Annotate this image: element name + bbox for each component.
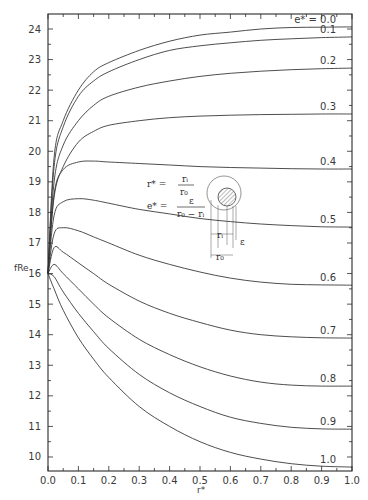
y-tick-label: 22 [28,85,41,96]
y-tick-label: 14 [28,329,41,340]
x-tick-label: 1.0 [344,475,360,486]
formula-e-lhs: e* = [147,201,167,211]
y-tick-label: 12 [28,390,41,401]
x-tick-label: 0.8 [283,475,299,486]
curve-label: 0.7 [320,325,336,336]
x-tick-label: 0.2 [101,475,117,486]
x-axis-label: r* [197,485,206,495]
y-tick-label: 13 [28,360,41,371]
y-tick-label: 11 [28,421,41,432]
y-tick-label: 19 [28,176,41,187]
x-tick-label: 0.7 [253,475,269,486]
formula-e-denominator: r₀ − rᵢ [177,209,204,219]
x-tick-label: 0.9 [314,475,330,486]
y-tick-label: 20 [28,146,41,157]
inner-rod-circle [218,188,236,206]
x-tick-label: 0.6 [222,475,238,486]
curve-label: 0.6 [320,272,336,283]
curve-e-0-3 [48,114,352,274]
formula-e-numerator: ε [189,196,194,206]
y-tick-label: 15 [28,299,41,310]
plot-frame [48,14,352,471]
y-axis-label: fRe [14,263,29,273]
curve-label: 0.3 [320,101,336,112]
curve-label: 0.5 [320,214,336,225]
x-tick-label: 0.3 [131,475,147,486]
diagram-label-ri: rᵢ [217,230,223,240]
fre-vs-rstar-chart: 1011121314151617181920212223240.00.10.20… [0,0,368,500]
curve-label: 0.4 [320,156,336,167]
formula-r-lhs: r* = [147,179,166,189]
diagram-label-ro: r₀ [216,252,224,262]
curve-e-0-8 [48,264,352,386]
curve-e-0-9 [48,274,352,430]
curve-e-0-7 [48,246,352,338]
y-tick-label: 23 [28,54,41,65]
curve-label: 0.2 [320,55,336,66]
curve-label: 0.9 [320,416,336,427]
y-tick-label: 21 [28,115,41,126]
axes-group [48,14,352,471]
y-tick-label: 18 [28,207,41,218]
curve-label: 0.1 [320,24,336,35]
curve-label: 1.0 [320,454,336,465]
curve-e-0-2 [48,68,352,273]
formula-r-numerator: rᵢ [182,174,188,184]
y-tick-label: 16 [28,268,41,279]
eccentric-annulus-diagram: rᵢ r₀ ε [207,176,245,262]
formula-r-denominator: r₀ [180,187,188,197]
curve-label: 0.8 [320,373,336,384]
curve-e-1-0 [48,274,352,468]
y-tick-label: 24 [28,24,41,35]
x-tick-label: 0.1 [70,475,86,486]
y-tick-label: 10 [28,451,41,462]
ticks-group: 1011121314151617181920212223240.00.10.20… [28,14,360,486]
curve-e-0-6 [48,228,352,286]
diagram-label-epsilon: ε [240,237,245,247]
curve-group [48,27,352,467]
curve-labels-group: e* = 0.00.10.20.30.40.50.60.70.80.91.0 [294,14,336,465]
x-tick-label: 0.0 [40,475,56,486]
y-tick-label: 17 [28,237,41,248]
x-tick-label: 0.4 [162,475,178,486]
